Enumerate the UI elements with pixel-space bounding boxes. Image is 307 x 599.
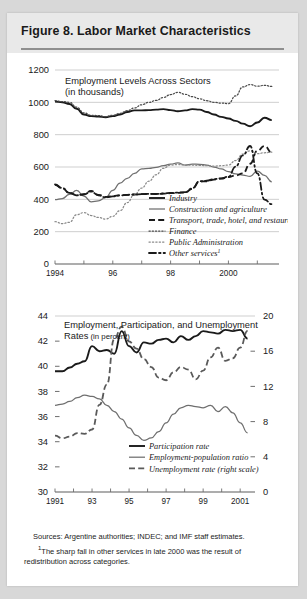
legend-label: Construction and agriculture (169, 205, 267, 214)
y-tick-label-right: 12 (263, 382, 273, 392)
y-tick-label-left: 44 (38, 311, 48, 321)
x-tick-label: 93 (87, 497, 97, 506)
y-tick-label: 200 (33, 227, 49, 237)
x-tick-label: 95 (125, 497, 135, 506)
sources-line-2-text: The sharp fall in other services in late… (41, 546, 241, 555)
y-tick-label: 800 (33, 130, 49, 140)
y-tick-label-left: 32 (38, 462, 48, 472)
sources-line-1: Sources: Argentine authorities; INDEC; a… (33, 532, 283, 543)
y-tick-label-right: 8 (263, 417, 268, 427)
chart-panel-employment-levels: 020040060080010001200199496982000Employm… (17, 58, 288, 306)
legend-label: Industry (168, 194, 197, 203)
chart-subtitle: (in thousands) (65, 87, 124, 97)
x-tick-label: 99 (199, 497, 209, 506)
y-tick-label-left: 38 (38, 387, 48, 397)
legend-label: Transport, trade, hotel, and restaurants (169, 216, 288, 225)
y-tick-label: 400 (33, 195, 49, 205)
y-tick-label-left: 34 (38, 437, 48, 447)
x-tick-label: 98 (166, 269, 176, 278)
y-tick-label: 1000 (28, 98, 49, 108)
y-tick-label-left: 42 (38, 336, 48, 346)
y-tick-label-right: 16 (263, 346, 273, 356)
x-tick-label: 96 (108, 269, 118, 278)
legend-label: Other services1 (169, 248, 221, 258)
sources-line-3: redistribution across categories. (24, 557, 283, 568)
y-tick-label: 600 (33, 162, 49, 172)
chart-panel-rates: 3032343638404244048121620199193959799200… (17, 306, 288, 518)
chart-title: Employment, Participation, and Unemploym… (64, 320, 258, 330)
sources-line-2: 1The sharp fall in other services in lat… (38, 543, 283, 557)
legend-label: Participation rate (148, 442, 210, 451)
y-tick-label-right: 4 (263, 452, 268, 462)
title-divider (21, 48, 284, 50)
chart-subtitle: Rates (in percent) (64, 331, 130, 341)
x-tick-label: 1991 (46, 497, 65, 506)
y-tick-label-right: 20 (263, 311, 273, 321)
x-tick-label: 1994 (46, 269, 65, 278)
legend-label: Public Administration (168, 238, 243, 247)
chart-title: Employment Levels Across Sectors (65, 76, 211, 86)
sources-note: Sources: Argentine authorities; INDEC; a… (33, 532, 283, 567)
y-tick-label-left: 40 (38, 361, 48, 371)
x-tick-label: 2000 (219, 269, 238, 278)
x-tick-label: 2001 (231, 497, 250, 506)
y-tick-label: 1200 (28, 65, 49, 75)
series-line (55, 146, 272, 197)
legend-label: Unemployment rate (right scale) (149, 465, 259, 474)
y-tick-label-left: 36 (38, 412, 48, 422)
rates-chart: 3032343638404244048121620199193959799200… (17, 306, 288, 518)
x-tick-label: 97 (162, 497, 172, 506)
employment-levels-chart: 020040060080010001200199496982000Employm… (17, 58, 288, 306)
legend-label: Employment-population ratio (148, 453, 248, 462)
figure-card: Figure 8. Labor Market Characteristics 0… (7, 13, 298, 586)
legend-label: Finance (168, 227, 197, 236)
y-tick-label-right: 0 (263, 487, 268, 497)
page-title: Figure 8. Labor Market Characteristics (21, 24, 251, 38)
